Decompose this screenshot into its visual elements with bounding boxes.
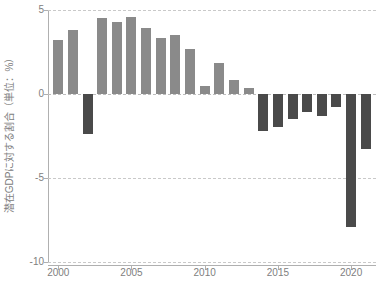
bar-2014 (258, 94, 268, 131)
bar-2009 (185, 49, 195, 94)
bar-2013 (244, 88, 254, 94)
bar-2020 (346, 94, 356, 227)
bar-2021 (361, 94, 371, 149)
x-axis-line (48, 265, 376, 266)
gridline--5 (48, 178, 376, 179)
x-tick-label-2015: 2015 (258, 268, 298, 278)
y-tick-label-0: 0 (18, 89, 44, 99)
gridline--10 (48, 262, 376, 263)
bar-2011 (214, 63, 224, 94)
y-tick-mark--5 (44, 178, 48, 179)
bar-2015 (273, 94, 283, 127)
y-tick-label--5: -5 (18, 173, 44, 183)
y-axis-tick-labels: 50-5-10 (14, 0, 44, 286)
bar-2016 (288, 94, 298, 119)
x-axis-tick-labels: 20002005201020152020 (48, 10, 376, 50)
x-tick-label-2020: 2020 (331, 268, 371, 278)
y-tick-label-5: 5 (18, 5, 44, 15)
y-tick-mark-0 (44, 94, 48, 95)
bar-2012 (229, 80, 239, 94)
bar-chart: 潜在GDPに対する割合（単位：%） 50-5-10 20002005201020… (0, 0, 381, 286)
bar-2019 (331, 94, 341, 107)
bar-2010 (200, 86, 210, 94)
x-tick-label-2005: 2005 (111, 268, 151, 278)
y-tick-label--10: -10 (18, 257, 44, 267)
x-tick-label-2000: 2000 (38, 268, 78, 278)
bar-2017 (302, 94, 312, 112)
bar-2018 (317, 94, 327, 116)
x-tick-label-2010: 2010 (185, 268, 225, 278)
bar-2002 (83, 94, 93, 134)
y-tick-mark--10 (44, 262, 48, 263)
